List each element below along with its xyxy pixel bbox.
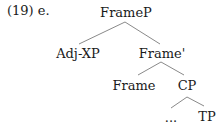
node-cp: CP [178, 79, 197, 93]
node-frame-bar: Frame' [139, 47, 186, 61]
branch-framep-adjxp [79, 22, 125, 44]
node-ellipsis: ... [165, 111, 177, 125]
branch-cp-ellipsis [171, 97, 187, 108]
branch-framep-framebar [125, 22, 160, 44]
branch-cp-tp [187, 97, 204, 106]
branch-framebar-frame [138, 62, 161, 75]
node-tp: TP [198, 110, 215, 124]
branch-framebar-cp [161, 62, 184, 75]
node-framep: FrameP [100, 6, 152, 20]
node-frame-head: Frame [112, 79, 155, 93]
node-adjxp: Adj-XP [56, 47, 100, 61]
